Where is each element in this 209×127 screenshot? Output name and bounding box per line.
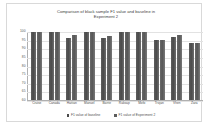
legend-item[interactable]: F1 value of Experiment 2	[114, 114, 155, 117]
bar[interactable]	[171, 37, 176, 101]
bar[interactable]	[90, 32, 95, 101]
legend-swatch-icon	[67, 114, 70, 117]
y-axis-tick-label: 60	[22, 99, 26, 102]
legend-item[interactable]: F1 value of baseline	[67, 114, 101, 117]
bar-group	[151, 32, 169, 101]
bar-group	[168, 32, 186, 101]
plot-area: 1009590858075706560	[27, 32, 203, 101]
chart-frame: Comparison of black sample F1 value and …	[6, 3, 202, 122]
bar[interactable]	[177, 35, 182, 101]
bar[interactable]	[119, 32, 124, 101]
x-axis-tick-label: Manuel	[81, 102, 99, 105]
y-axis-tick-label: 85	[22, 56, 26, 59]
bar[interactable]	[49, 32, 54, 101]
bar[interactable]	[160, 40, 165, 101]
bar[interactable]	[107, 36, 112, 101]
bar-group	[98, 32, 116, 101]
y-axis-tick-label: 80	[22, 65, 26, 68]
legend-label: F1 value of Experiment 2	[119, 114, 156, 117]
chart-title-line-2: Experiment 2	[33, 14, 179, 19]
bar[interactable]	[142, 32, 147, 101]
bar-group	[116, 32, 134, 101]
y-axis-tick-label: 100	[20, 30, 26, 33]
bar[interactable]	[154, 40, 159, 101]
bar-groups	[28, 32, 203, 101]
bar-group	[81, 32, 99, 101]
bar[interactable]	[55, 32, 60, 101]
bar[interactable]	[189, 43, 194, 101]
bar[interactable]	[101, 38, 106, 101]
bar[interactable]	[84, 32, 89, 101]
x-axis-tick-label: Trojan	[151, 102, 169, 105]
chart-legend: F1 value of baselineF1 value of Experime…	[13, 114, 209, 117]
bar-group	[133, 32, 151, 101]
x-axis-labels: CruiseCanadaHaitianManuelBarrieRaksapMof…	[28, 102, 203, 105]
x-axis-tick-label: Vhen	[168, 102, 186, 105]
x-axis-tick-label: Haitian	[63, 102, 81, 105]
bar-group	[28, 32, 46, 101]
bar-group	[186, 32, 204, 101]
x-axis-tick-label: Cruise	[28, 102, 46, 105]
plot-canvas: 1009590858075706560	[27, 32, 203, 101]
chart-title: Comparison of black sample F1 value and …	[33, 9, 179, 20]
y-axis-tick-label: 90	[22, 48, 26, 51]
legend-swatch-icon	[114, 114, 117, 117]
x-axis-tick-label: Raksap	[116, 102, 134, 105]
x-axis-tick-label: Zara	[186, 102, 204, 105]
bar[interactable]	[31, 32, 36, 101]
bar[interactable]	[37, 32, 42, 101]
y-axis-tick-label: 70	[22, 82, 26, 85]
y-axis-tick-label: 75	[22, 73, 26, 76]
x-axis-tick-label: Canada	[46, 102, 64, 105]
bar[interactable]	[66, 38, 71, 101]
bar-group	[63, 32, 81, 101]
x-axis-tick-label: Mofo	[133, 102, 151, 105]
bar[interactable]	[195, 43, 200, 101]
bar-group	[46, 32, 64, 101]
legend-label: F1 value of baseline	[71, 114, 101, 117]
y-axis-tick-label: 65	[22, 91, 26, 94]
bar[interactable]	[125, 32, 130, 101]
bar[interactable]	[72, 35, 77, 101]
bar[interactable]	[136, 32, 141, 101]
y-axis-tick-label: 95	[22, 39, 26, 42]
x-axis-tick-label: Barrie	[98, 102, 116, 105]
